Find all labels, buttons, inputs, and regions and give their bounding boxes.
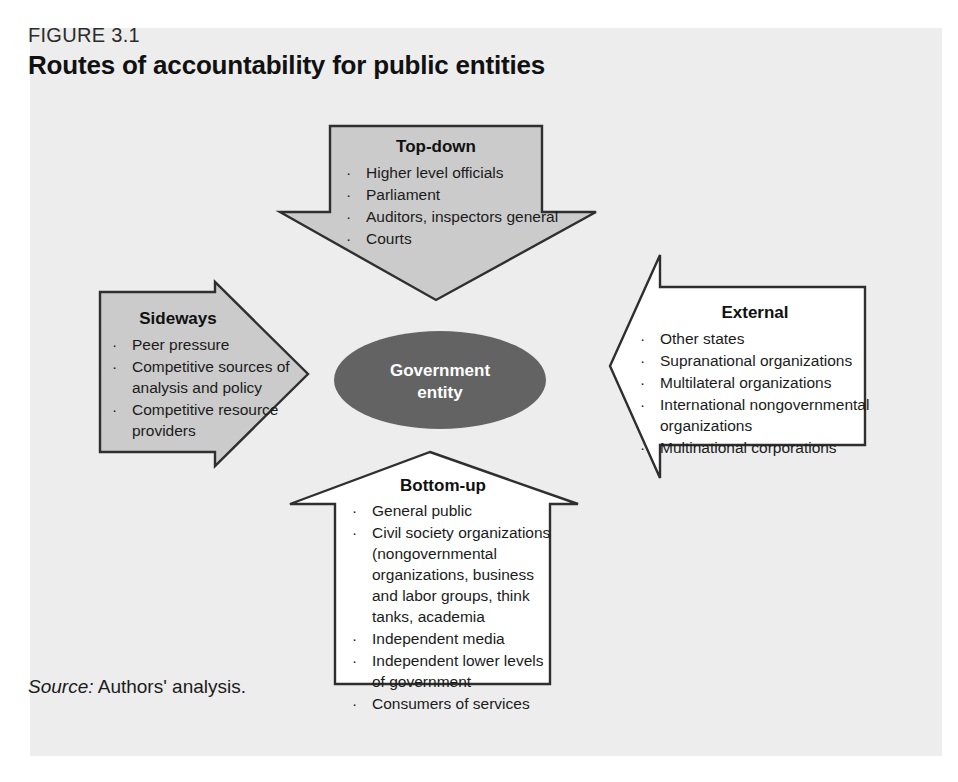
- bullet-dot: ·: [112, 401, 117, 418]
- list-item: Courts: [366, 230, 412, 247]
- list-item: Peer pressure: [132, 336, 229, 353]
- bullet-dot: ·: [352, 630, 357, 647]
- list-item: Competitive resource: [132, 401, 278, 418]
- list-item: Supranational organizations: [660, 352, 852, 369]
- center-label-line2: entity: [417, 383, 463, 402]
- bullet-dot: ·: [346, 230, 351, 247]
- arrow-external[interactable]: External · Other states · Supranational …: [610, 255, 869, 478]
- bullet-dot: ·: [346, 186, 351, 203]
- arrow-bottom-up[interactable]: Bottom-up · General public · Civil socie…: [290, 452, 578, 712]
- arrow-top-down[interactable]: Top-down · Higher level officials · Parl…: [280, 126, 596, 300]
- list-item: Other states: [660, 330, 745, 347]
- list-item-cont: tanks, academia: [372, 608, 485, 625]
- list-item-cont: providers: [132, 422, 196, 439]
- list-item-cont: analysis and policy: [132, 379, 262, 396]
- bullet-dot: ·: [640, 330, 645, 347]
- arrow-bottom-up-title: Bottom-up: [400, 476, 486, 495]
- bullet-dot: ·: [352, 524, 357, 541]
- center-ellipse-shape: [334, 331, 546, 429]
- list-item-cont: and labor groups, think: [372, 587, 530, 604]
- bullet-dot: ·: [352, 695, 357, 712]
- center-label-line1: Government: [390, 361, 490, 380]
- bullet-dot: ·: [640, 439, 645, 456]
- bullet-dot: ·: [112, 358, 117, 375]
- source-note: Source: Authors' analysis.: [28, 676, 246, 698]
- bullet-dot: ·: [352, 502, 357, 519]
- list-item: Civil society organizations: [372, 524, 551, 541]
- list-item: Higher level officials: [366, 164, 504, 181]
- accountability-diagram: Top-down · Higher level officials · Parl…: [0, 0, 958, 782]
- list-item: Auditors, inspectors general: [366, 208, 558, 225]
- list-item: Parliament: [366, 186, 441, 203]
- list-item: Independent lower levels: [372, 652, 544, 669]
- arrow-external-title: External: [721, 303, 788, 322]
- list-item: Independent media: [372, 630, 505, 647]
- list-item-cont: organizations, business: [372, 566, 534, 583]
- source-text: Authors' analysis.: [93, 676, 246, 697]
- bullet-dot: ·: [640, 374, 645, 391]
- arrow-sideways[interactable]: Sideways · Peer pressure · Competitive s…: [100, 282, 308, 466]
- source-label: Source:: [28, 676, 93, 697]
- list-item: Competitive sources of: [132, 358, 290, 375]
- list-item: Multinational corporations: [660, 439, 837, 456]
- list-item: Multilateral organizations: [660, 374, 832, 391]
- bullet-dot: ·: [112, 336, 117, 353]
- arrow-top-down-title: Top-down: [396, 137, 476, 156]
- list-item: General public: [372, 502, 472, 519]
- arrow-sideways-title: Sideways: [139, 309, 217, 328]
- center-node-government-entity[interactable]: Government entity: [334, 331, 546, 429]
- list-item: International nongovernmental: [660, 396, 869, 413]
- bullet-dot: ·: [352, 652, 357, 669]
- list-item-cont: (nongovernmental: [372, 545, 497, 562]
- list-item: Consumers of services: [372, 695, 530, 712]
- bullet-dot: ·: [640, 396, 645, 413]
- bullet-dot: ·: [640, 352, 645, 369]
- bullet-dot: ·: [346, 164, 351, 181]
- bullet-dot: ·: [346, 208, 351, 225]
- list-item-cont: of government: [372, 673, 472, 690]
- list-item-cont: organizations: [660, 417, 752, 434]
